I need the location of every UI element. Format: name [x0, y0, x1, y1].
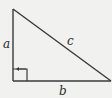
side-c-hypotenuse: [13, 9, 111, 81]
label-c: c: [67, 34, 74, 48]
right-angle-arrowhead-icon: [16, 67, 19, 71]
triangle-svg: a c b: [0, 0, 112, 98]
triangle-diagram: a c b: [0, 0, 112, 98]
label-a: a: [3, 37, 10, 51]
right-angle-marker-icon: [13, 69, 27, 81]
label-b: b: [59, 84, 67, 98]
